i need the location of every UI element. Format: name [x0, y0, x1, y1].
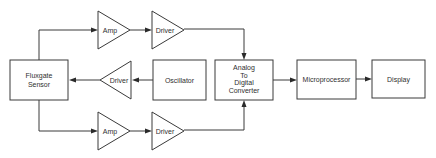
- fluxgate-sensor-block: Fluxgate Sensor: [10, 60, 68, 100]
- oscillator-label: Oscillator: [165, 77, 195, 84]
- amp-bottom-label: Amp: [103, 128, 118, 136]
- arrowhead-icon: [242, 53, 247, 60]
- amp-top-block: Amp: [98, 11, 130, 49]
- arrowhead-icon: [242, 100, 247, 107]
- display-label: Display: [387, 76, 410, 84]
- fluxgate-sensor-label-line-2: Sensor: [28, 81, 51, 88]
- arrowhead-icon: [365, 77, 372, 82]
- display-block: Display: [372, 60, 425, 98]
- adc-label-line-4: Converter: [229, 87, 260, 94]
- driver-top-block: Driver: [152, 11, 184, 49]
- block-diagram: Fluxgate Sensor Amp Driver Driver Oscill…: [0, 0, 436, 158]
- arrowhead-icon: [145, 28, 152, 33]
- driver-mid-block: Driver: [100, 61, 131, 99]
- edge-driver-bottom-to-adc: [184, 107, 244, 130]
- arrowhead-icon: [91, 28, 98, 33]
- driver-bottom-label: Driver: [156, 128, 175, 135]
- edge-sensor-to-amp-bottom: [39, 100, 92, 131]
- adc-label-line-2: To: [240, 72, 248, 79]
- oscillator-block: Oscillator: [153, 60, 206, 100]
- microprocessor-block: Microprocessor: [297, 60, 356, 99]
- adc-block: Analog To Digital Converter: [215, 60, 273, 100]
- amp-top-label: Amp: [103, 27, 118, 35]
- edge-driver-top-to-adc: [184, 29, 244, 54]
- arrowhead-icon: [145, 129, 152, 134]
- arrowhead-icon: [290, 78, 297, 83]
- fluxgate-sensor-label-line-1: Fluxgate: [26, 72, 53, 80]
- amp-bottom-block: Amp: [98, 112, 130, 150]
- microprocessor-label: Microprocessor: [303, 76, 352, 84]
- arrowhead-icon: [132, 78, 139, 83]
- driver-mid-label: Driver: [110, 77, 129, 84]
- arrowhead-icon: [69, 78, 76, 83]
- edge-sensor-to-amp-top: [39, 30, 92, 60]
- arrowhead-icon: [91, 129, 98, 134]
- driver-top-label: Driver: [156, 27, 175, 34]
- driver-bottom-block: Driver: [152, 112, 184, 150]
